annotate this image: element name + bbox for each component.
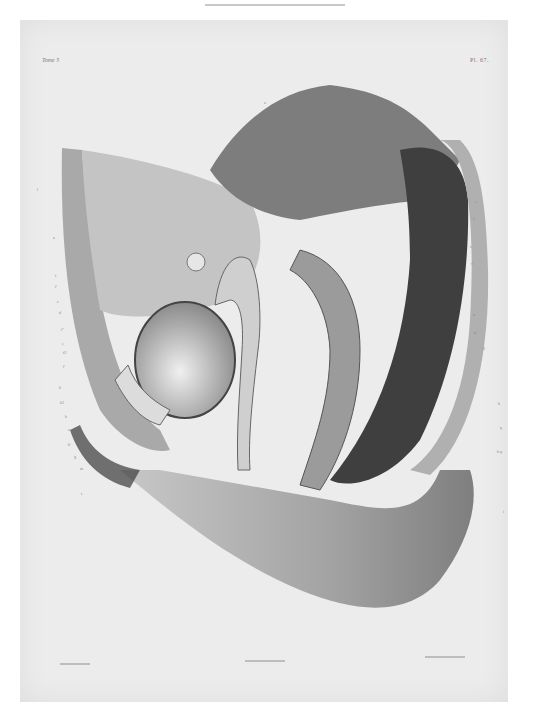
anatomy-label: m <box>80 467 83 471</box>
anatomy-label: f'' <box>61 328 64 332</box>
anatomy-label: c <box>57 300 59 304</box>
volume-label: Tome 5 <box>42 57 59 63</box>
page-header <box>0 2 550 10</box>
anatomy-label: i <box>503 510 504 514</box>
anatomy-label: r <box>475 200 476 204</box>
anatomy-label: o <box>68 428 70 432</box>
anatomy-label: g <box>74 455 76 459</box>
anatomy-label: f2 <box>63 351 66 355</box>
body-silhouette <box>120 470 474 608</box>
anatomy-label: h <box>65 415 67 419</box>
ovary <box>187 253 205 271</box>
anatomy-label: q' <box>474 331 477 335</box>
anatomy-label: e <box>62 342 64 346</box>
anatomy-label: l' <box>63 365 65 369</box>
anatomy-label: n <box>473 313 475 317</box>
anatomy-label: t <box>81 492 82 496</box>
anatomy-label: a <box>330 95 332 99</box>
anatomy-label: f2 <box>482 347 485 351</box>
page-header-text <box>205 4 345 6</box>
anatomy-label: d <box>59 311 61 315</box>
plate-number: Pl. 67. <box>470 57 489 63</box>
anatomy-label: q <box>500 426 502 430</box>
credit-artist <box>60 663 90 665</box>
anatomy-label: s <box>473 217 475 221</box>
anatomy-label: k2 <box>60 401 64 405</box>
anatomy-label: f' <box>55 285 57 289</box>
anatomy-label: c <box>470 245 472 249</box>
anatomy-label: a <box>264 101 266 105</box>
anatomy-label: v <box>471 262 473 266</box>
anatomy-label: k <box>498 402 500 406</box>
anatomy-label: h q <box>497 450 502 454</box>
anatomy-label: l <box>37 188 38 192</box>
anatomy-label: a <box>53 236 55 240</box>
anatomy-label: h' <box>68 443 71 447</box>
credit-printer <box>425 656 465 658</box>
anatomy-label: f <box>55 274 56 278</box>
anatomy-label: k <box>59 386 61 390</box>
pelvis-section-illustration <box>20 20 508 702</box>
credit-center <box>245 660 285 662</box>
